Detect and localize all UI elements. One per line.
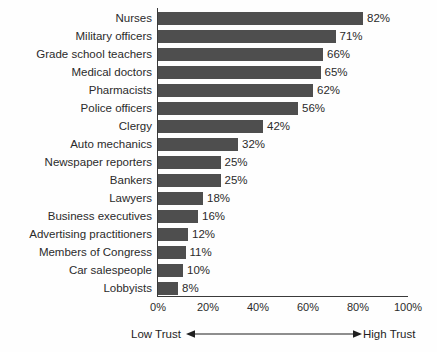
bar-value-label: 66%	[327, 48, 350, 61]
bar-row: Nurses82%	[0, 9, 437, 27]
x-axis-tick-labels: 0%20%40%60%80%100%	[0, 301, 437, 317]
bar-with-value: 18%	[158, 192, 230, 205]
bar-row: Pharmacists62%	[0, 81, 437, 99]
bar-with-value: 8%	[158, 282, 199, 295]
category-label: Military officers	[0, 30, 152, 42]
bar	[158, 174, 221, 187]
bar-value-label: 12%	[192, 228, 215, 241]
category-label: Grade school teachers	[0, 48, 152, 60]
category-label: Auto mechanics	[0, 138, 152, 150]
bar-row: Medical doctors65%	[0, 63, 437, 81]
x-tick-label: 0%	[150, 301, 166, 313]
bar-value-label: 18%	[207, 192, 230, 205]
bar-row: Auto mechanics32%	[0, 135, 437, 153]
bar-value-label: 62%	[317, 84, 340, 97]
category-label: Pharmacists	[0, 84, 152, 96]
bar-with-value: 25%	[158, 156, 248, 169]
bar	[158, 282, 178, 295]
category-label: Members of Congress	[0, 246, 152, 258]
x-tick-label: 20%	[197, 301, 219, 313]
category-label: Nurses	[0, 12, 152, 24]
bar	[158, 102, 298, 115]
bar-value-label: 71%	[340, 30, 363, 43]
double-headed-arrow-icon	[186, 326, 362, 342]
bar	[158, 228, 188, 241]
bar	[158, 12, 363, 25]
bar-row: Police officers56%	[0, 99, 437, 117]
bar	[158, 84, 313, 97]
bar-value-label: 32%	[242, 138, 265, 151]
bar-row: Clergy42%	[0, 117, 437, 135]
bar-with-value: 82%	[158, 12, 390, 25]
category-label: Lawyers	[0, 192, 152, 204]
bar-with-value: 71%	[158, 30, 363, 43]
x-tick-label: 60%	[297, 301, 319, 313]
bar-with-value: 56%	[158, 102, 325, 115]
bar-value-label: 10%	[187, 264, 210, 277]
category-label: Newspaper reporters	[0, 156, 152, 168]
bar-row: Lawyers18%	[0, 189, 437, 207]
bar-row: Business executives16%	[0, 207, 437, 225]
bar	[158, 156, 221, 169]
bar-with-value: 65%	[158, 66, 348, 79]
category-label: Business executives	[0, 210, 152, 222]
bar-with-value: 10%	[158, 264, 210, 277]
category-label: Medical doctors	[0, 66, 152, 78]
low-trust-label: Low Trust	[131, 328, 181, 340]
bar-row: Newspaper reporters25%	[0, 153, 437, 171]
high-trust-label: High Trust	[363, 328, 415, 340]
bar	[158, 138, 238, 151]
bar-value-label: 25%	[225, 174, 248, 187]
bar-row: Lobbyists8%	[0, 279, 437, 297]
bar-value-label: 11%	[190, 246, 212, 259]
bar-chart: Nurses82%Military officers71%Grade schoo…	[0, 0, 437, 352]
bar-value-label: 25%	[225, 156, 248, 169]
bar-row: Car salespeople10%	[0, 261, 437, 279]
x-tick-label: 100%	[394, 301, 422, 313]
x-tick-label: 40%	[247, 301, 269, 313]
bar	[158, 66, 321, 79]
bar-value-label: 56%	[302, 102, 325, 115]
bar-value-label: 16%	[202, 210, 225, 223]
category-label: Police officers	[0, 102, 152, 114]
bar-with-value: 12%	[158, 228, 215, 241]
bar	[158, 120, 263, 133]
bar-row: Advertising practitioners12%	[0, 225, 437, 243]
bar-row: Members of Congress11%	[0, 243, 437, 261]
bar-with-value: 25%	[158, 174, 248, 187]
category-label: Bankers	[0, 174, 152, 186]
category-label: Advertising practitioners	[0, 228, 152, 240]
bar-row: Grade school teachers66%	[0, 45, 437, 63]
category-label: Lobbyists	[0, 282, 152, 294]
bar-row: Bankers25%	[0, 171, 437, 189]
bar-with-value: 11%	[158, 246, 212, 259]
category-label: Clergy	[0, 120, 152, 132]
bar-row: Military officers71%	[0, 27, 437, 45]
bar	[158, 30, 336, 43]
bar-with-value: 42%	[158, 120, 290, 133]
bar-with-value: 16%	[158, 210, 225, 223]
bar-with-value: 32%	[158, 138, 265, 151]
x-tick-label: 80%	[347, 301, 369, 313]
bar-with-value: 66%	[158, 48, 350, 61]
category-label: Car salespeople	[0, 264, 152, 276]
bar	[158, 48, 323, 61]
trust-scale-annotation: Low Trust High Trust	[0, 326, 437, 346]
bar-value-label: 65%	[325, 66, 348, 79]
bar	[158, 210, 198, 223]
bar-value-label: 42%	[267, 120, 290, 133]
bar-value-label: 8%	[182, 282, 199, 295]
bar	[158, 264, 183, 277]
bar-with-value: 62%	[158, 84, 340, 97]
bar	[158, 246, 186, 259]
bar-value-label: 82%	[367, 12, 390, 25]
bar	[158, 192, 203, 205]
